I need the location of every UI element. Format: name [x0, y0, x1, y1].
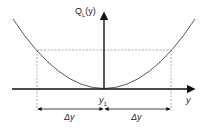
y-axis-label-suffix: (y): [85, 6, 96, 16]
left-interval-label: Δy: [64, 112, 75, 122]
right-interval-label: Δy: [131, 112, 142, 122]
parabola-diagram: [0, 0, 205, 129]
y-axis-label-prefix: Q: [75, 6, 82, 16]
center-label-sub: 1: [104, 101, 107, 107]
y-axis-label: QL(y): [75, 6, 96, 18]
center-label: y1: [99, 95, 107, 107]
x-axis-label: y: [186, 95, 191, 105]
